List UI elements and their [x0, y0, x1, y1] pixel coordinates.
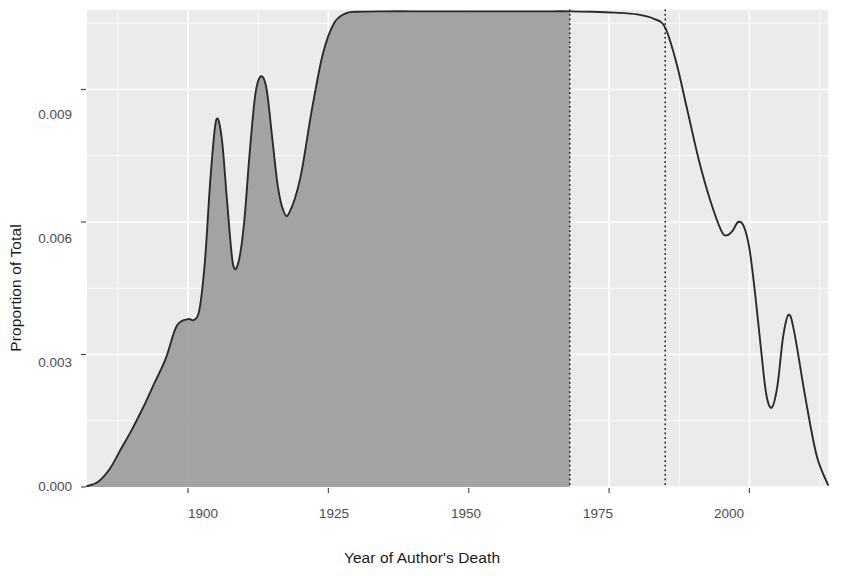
x-tick-label-1925: 1925	[319, 506, 349, 521]
x-tick-label-1950: 1950	[451, 506, 481, 521]
y-tick-label-0-000: 0.000	[38, 479, 72, 494]
x-axis-title: Year of Author's Death	[0, 549, 844, 567]
y-tick-label-0-006: 0.006	[38, 231, 72, 246]
y-axis-title: Proportion of Total	[7, 224, 25, 351]
x-tick-label-1900: 1900	[188, 506, 218, 521]
x-tick-label-1975: 1975	[583, 506, 613, 521]
x-tick-label-2000: 2000	[714, 506, 744, 521]
density-plot	[0, 0, 844, 576]
y-tick-label-0-009: 0.009	[38, 107, 72, 122]
chart-figure: 1900 1925 1950 1975 2000 0.009 0.006 0.0…	[0, 0, 844, 576]
y-tick-label-0-003: 0.003	[38, 355, 72, 370]
